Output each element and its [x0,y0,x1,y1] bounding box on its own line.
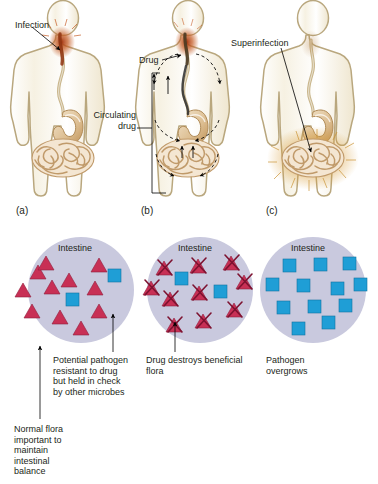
panel-letter-c: (c) [266,205,278,216]
panel-letter-a: (a) [16,205,28,216]
circulating-drug-label: Circulating drug [86,110,136,131]
top-row-bodies [0,0,378,230]
caption-drug-destroys: Drug destroys beneficial flora [146,355,243,376]
caption-pathogen-overgrows: Pathogen overgrows [266,355,308,376]
caption-normal-flora: Normal flora important to maintain intes… [14,424,63,477]
figure-canvas: Infection Drug Circulating drug Superinf… [0,0,378,484]
body-figure-b [136,1,230,197]
superinfection-label: Superinfection [231,38,289,49]
intestine-title-1: Intestine [58,243,92,253]
infection-label: Infection [15,20,49,31]
drug-label: Drug [139,55,159,66]
panel-letter-b: (b) [141,205,153,216]
caption-potential-pathogen: Potential pathogen resistant to drug but… [53,355,128,397]
intestine-title-3: Intestine [291,243,325,253]
intestine-title-2: Intestine [178,243,212,253]
body-figure-c [261,1,359,197]
